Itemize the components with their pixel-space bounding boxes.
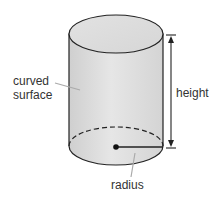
cylinder-diagram: curved surface height radius [0,0,219,202]
cylinder-top-face [69,15,163,53]
height-label: height [176,86,209,100]
curved-surface-label-line2: surface [13,88,53,102]
radius-label: radius [111,178,144,192]
curved-surface-label-line1: curved [13,74,49,88]
height-arrow [166,35,176,148]
center-dot [113,144,119,150]
